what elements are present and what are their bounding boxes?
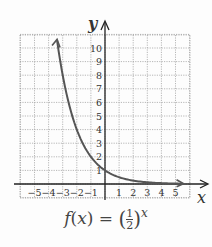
x-axis-title: x: [197, 188, 206, 207]
y-tick-label: 4: [96, 124, 102, 135]
fraction-numerator: 1: [126, 208, 133, 220]
y-tick-label: 2: [96, 151, 102, 162]
y-axis-title: y: [87, 14, 99, 33]
y-tick-label: 10: [90, 43, 102, 54]
exponential-graph: xy−5−4−3−2−11234512345678910 f(x) = ( 1 …: [0, 0, 212, 247]
y-tick-label: 5: [96, 111, 102, 122]
fraction-denominator: 2: [126, 220, 133, 231]
x-tick-label: 3: [144, 187, 150, 198]
x-tick-label: 4: [158, 187, 164, 198]
y-tick-label: 3: [96, 138, 102, 149]
x-tick-label: 2: [130, 187, 136, 198]
y-tick-label: 6: [96, 97, 102, 108]
y-tick-label: 9: [96, 56, 102, 67]
x-tick-label: −2: [70, 187, 84, 198]
x-tick-label: −1: [84, 187, 98, 198]
x-tick-label: −3: [56, 187, 70, 198]
x-tick-label: 5: [172, 187, 178, 198]
exponent: x: [141, 206, 148, 220]
x-tick-label: 1: [116, 187, 122, 198]
x-tick-label: −4: [42, 187, 56, 198]
x-tick-label: −5: [27, 187, 41, 198]
function-label: f(x) = ( 1 2 )x: [0, 206, 212, 231]
y-tick-label: 7: [96, 83, 102, 94]
curve-arrow-up-icon: [52, 39, 60, 47]
y-tick-label: 8: [96, 70, 102, 81]
